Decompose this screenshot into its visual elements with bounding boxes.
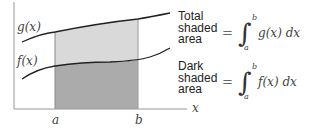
dark-shaded-region bbox=[55, 60, 138, 109]
legend-total-upper-limit: b bbox=[252, 13, 257, 22]
tick-b-label: b bbox=[135, 113, 143, 127]
legend-total-lower-limit: a bbox=[244, 43, 249, 52]
legend-total-equals: = bbox=[222, 25, 233, 40]
f-curve-label: f(x) bbox=[16, 54, 38, 68]
legend-dark-shaded: Dark shaded area = ∫ b a f(x) dx bbox=[178, 59, 297, 101]
legend-total-line3: area bbox=[178, 32, 202, 46]
tick-a-label: a bbox=[52, 113, 59, 127]
legend-total-shaded: Total shaded area = ∫ b a g(x) dx bbox=[178, 9, 300, 52]
legend-dark-upper-limit: b bbox=[252, 62, 257, 71]
integral-diagram: g(x) f(x) a b x Total shaded area = ∫ b … bbox=[0, 0, 309, 130]
legend-total-integrand: g(x) dx bbox=[258, 26, 300, 40]
legend-dark-line3: area bbox=[178, 82, 202, 96]
legend-dark-lower-limit: a bbox=[244, 92, 249, 101]
g-curve-label: g(x) bbox=[17, 20, 41, 34]
x-axis-label: x bbox=[192, 101, 199, 115]
legend-dark-equals: = bbox=[222, 74, 233, 89]
legend-dark-integrand: f(x) dx bbox=[257, 75, 297, 89]
